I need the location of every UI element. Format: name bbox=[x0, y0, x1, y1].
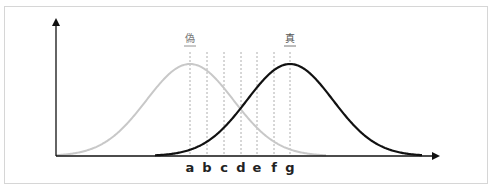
true-label-text: 真 bbox=[285, 32, 295, 44]
true-distribution-curve bbox=[155, 64, 422, 155]
threshold-label-g: g bbox=[285, 160, 294, 175]
false-label: 偽 bbox=[184, 32, 196, 46]
threshold-label-a: a bbox=[186, 160, 195, 175]
false-label-text: 偽 bbox=[185, 32, 195, 44]
threshold-label-b: b bbox=[202, 160, 211, 175]
threshold-label-d: d bbox=[236, 160, 245, 175]
threshold-label-e: e bbox=[253, 160, 262, 175]
true-label: 真 bbox=[284, 32, 296, 46]
threshold-label-c: c bbox=[220, 160, 228, 175]
threshold-lines bbox=[190, 52, 290, 156]
threshold-label-f: f bbox=[271, 160, 277, 175]
threshold-labels: abcdefg bbox=[186, 160, 295, 175]
distribution-diagram: 偽 真 abcdefg bbox=[0, 0, 492, 188]
false-distribution-curve bbox=[56, 64, 326, 155]
